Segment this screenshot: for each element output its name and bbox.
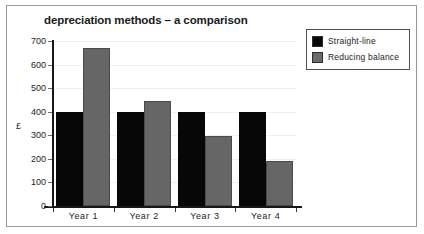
x-tick-mark — [175, 208, 176, 212]
chart-legend: Straight-line Reducing balance — [306, 29, 410, 70]
bar-year-1-straight-line — [56, 112, 83, 206]
y-tick-label: 500 — [12, 84, 46, 93]
legend-item-reducing-balance: Reducing balance — [312, 50, 404, 64]
legend-item-straight-line: Straight-line — [312, 34, 404, 48]
x-axis-line — [44, 206, 302, 208]
y-axis-label: £ — [16, 121, 21, 131]
x-tick-label: Year 2 — [113, 211, 175, 221]
y-tick-label: 700 — [12, 37, 46, 46]
x-tick-mark — [53, 208, 54, 212]
x-tick-label: Year 4 — [235, 211, 297, 221]
y-tick-mark — [48, 88, 52, 89]
legend-label-straight-line: Straight-line — [328, 36, 376, 46]
y-tick-label: 300 — [12, 131, 46, 140]
y-tick-mark — [48, 65, 52, 66]
y-tick-label: 0 — [12, 202, 46, 211]
bar-year-3-reducing-balance — [205, 136, 232, 206]
legend-label-reducing-balance: Reducing balance — [328, 52, 399, 62]
bar-year-4-reducing-balance — [266, 161, 293, 206]
x-tick-label: Year 3 — [174, 211, 236, 221]
y-tick-mark — [48, 41, 52, 42]
y-tick-mark — [48, 135, 52, 136]
bars-layer — [53, 41, 296, 206]
plot-area — [53, 41, 296, 206]
x-tick-label: Year 1 — [52, 211, 114, 221]
bar-year-1-reducing-balance — [83, 48, 110, 206]
chart-screenshot: depreciation methods – a comparison £ 01… — [0, 0, 424, 234]
bar-year-4-straight-line — [239, 112, 266, 206]
y-tick-mark — [48, 206, 52, 207]
y-tick-label: 100 — [12, 178, 46, 187]
x-tick-mark — [296, 208, 297, 212]
y-tick-label: 600 — [12, 61, 46, 70]
bar-year-2-reducing-balance — [144, 101, 171, 206]
bar-year-3-straight-line — [178, 112, 205, 206]
y-tick-mark — [48, 182, 52, 183]
y-tick-mark — [48, 159, 52, 160]
y-tick-label: 200 — [12, 155, 46, 164]
legend-swatch-icon-straight-line — [312, 36, 323, 47]
x-tick-mark — [235, 208, 236, 212]
bar-year-2-straight-line — [117, 112, 144, 206]
chart-title: depreciation methods – a comparison — [44, 14, 304, 26]
y-tick-mark — [48, 112, 52, 113]
x-tick-mark — [114, 208, 115, 212]
y-axis-line — [52, 40, 54, 207]
y-tick-label: 400 — [12, 108, 46, 117]
legend-swatch-icon-reducing-balance — [312, 52, 323, 63]
